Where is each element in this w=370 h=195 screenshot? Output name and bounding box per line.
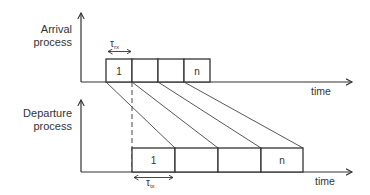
arrival-packet-1-label: 1 xyxy=(116,66,122,77)
departure-packet-1-label: 1 xyxy=(151,155,157,166)
arrival-label-line2: process xyxy=(33,36,72,48)
tau-tx-label: τtx xyxy=(146,177,155,189)
mapping-line-4 xyxy=(184,82,303,148)
departure-packet-n-label: n xyxy=(279,155,285,166)
departure-time-label: time xyxy=(315,175,335,187)
arrival-departure-diagram: Arrival process time τrx 1 n Departure p… xyxy=(0,0,370,195)
arrival-packet-n-label: n xyxy=(194,66,200,77)
arrival-label-line1: Arrival xyxy=(41,23,72,35)
mapping-line-2 xyxy=(132,82,218,148)
arrival-packet-3 xyxy=(158,59,184,82)
arrival-time-label: time xyxy=(311,85,331,97)
tau-rx-label: τrx xyxy=(110,38,119,50)
mapping-line-1 xyxy=(106,82,175,148)
mapping-line-3 xyxy=(158,82,261,148)
departure-packet-2 xyxy=(175,148,218,172)
departure-label-line1: Departure xyxy=(23,107,72,119)
arrival-packet-2 xyxy=(132,59,158,82)
departure-label-line2: process xyxy=(33,120,72,132)
departure-packet-3 xyxy=(218,148,261,172)
arrival-process-panel: Arrival process time τrx 1 n xyxy=(33,13,352,97)
departure-process-panel: Departure process time 1 n τtx xyxy=(23,100,352,189)
